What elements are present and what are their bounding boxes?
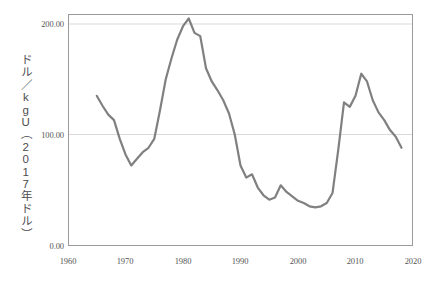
plot-frame: [68, 14, 413, 246]
chart-canvas: [68, 14, 413, 246]
x-tick-label: 2010: [347, 256, 364, 266]
x-tick-label: 2000: [290, 256, 307, 266]
gridlines: [68, 24, 413, 135]
x-tick-label: 1990: [232, 256, 249, 266]
x-tick-label: 1980: [175, 256, 192, 266]
y-tick-label: 0.00: [50, 241, 64, 251]
x-tick-label: 2020: [405, 256, 422, 266]
y-tick-label: 100.00: [41, 130, 64, 140]
x-tick-label: 1970: [117, 256, 134, 266]
data-line-series-0: [97, 18, 402, 207]
chart-figure: ドル／kgU（2017年ドル） 200.00 100.00 0.00 1960 …: [0, 0, 431, 283]
y-tick-label: 200.00: [41, 19, 64, 29]
y-axis-tick-labels: 200.00 100.00 0.00: [18, 0, 64, 283]
x-tick-label: 1960: [60, 256, 77, 266]
plot-area: [68, 14, 413, 246]
